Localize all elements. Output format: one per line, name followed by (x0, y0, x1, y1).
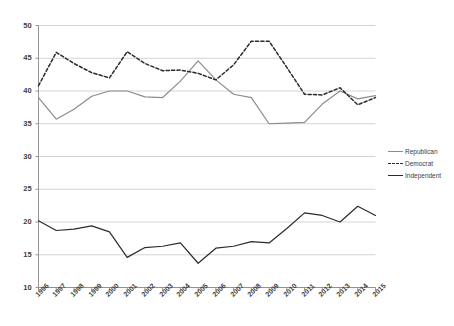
y-tick-label: 45 (12, 54, 32, 62)
legend-label: Republican (405, 148, 438, 155)
legend-item-democrat[interactable]: Democrat (388, 158, 454, 169)
y-tick-label: 15 (12, 251, 32, 259)
chart-legend: RepublicanDemocratIndependent (388, 146, 454, 182)
y-tick-label: 35 (12, 120, 32, 128)
plot-area (0, 0, 454, 326)
y-tick-label: 20 (12, 218, 32, 226)
legend-item-republican[interactable]: Republican (388, 146, 454, 157)
series-line-democrat (39, 41, 376, 105)
legend-label: Democrat (405, 160, 433, 167)
y-tick-label: 50 (12, 22, 32, 30)
series-line-republican (39, 61, 376, 124)
y-tick-label: 10 (12, 284, 32, 292)
legend-swatch-icon (388, 149, 403, 155)
legend-label: Independent (405, 172, 441, 179)
y-tick-label: 40 (12, 87, 32, 95)
legend-swatch-icon (388, 173, 403, 179)
line-chart: 101520253035404550 199619971998199920002… (0, 0, 454, 326)
y-tick-label: 30 (12, 153, 32, 161)
legend-swatch-icon (388, 161, 403, 167)
y-tick-label: 25 (12, 185, 32, 193)
legend-item-independent[interactable]: Independent (388, 170, 454, 181)
